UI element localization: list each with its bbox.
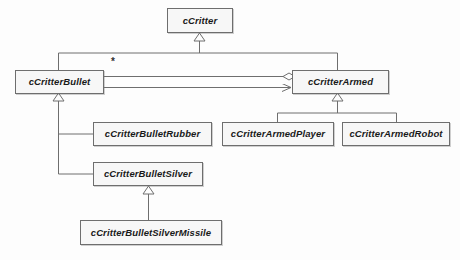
uml-class-diagram: cCritter cCritterBullet cCritterArmed cC… (0, 0, 460, 260)
class-box-ccritterarmed[interactable]: cCritterArmed (292, 70, 389, 94)
class-name-ccritter: cCritter (183, 16, 218, 26)
class-box-ccritterbulletsilvermissile[interactable]: cCritterBulletSilverMissile (80, 220, 222, 245)
class-name-ccritterbulletsilver: cCritterBulletSilver (104, 169, 192, 179)
class-box-ccritter[interactable]: cCritter (167, 8, 233, 33)
class-box-ccritterarmedrobot[interactable]: cCritterArmedRobot (342, 122, 450, 146)
class-name-ccritterbulletsilvermissile: cCritterBulletSilverMissile (91, 228, 211, 238)
class-name-ccritterarmedplayer: cCritterArmedPlayer (231, 129, 325, 139)
generalization-armed-bus (278, 101, 397, 122)
generalization-triangle-armed (332, 93, 343, 101)
class-box-ccritterbulletrubber[interactable]: cCritterBulletRubber (93, 122, 212, 146)
generalization-triangle-critter (194, 33, 205, 41)
class-name-ccritterbullet: cCritterBullet (29, 77, 91, 87)
class-box-ccritterbulletsilver[interactable]: cCritterBulletSilver (93, 162, 203, 186)
generalization-triangle-silver (143, 186, 154, 194)
multiplicity-label-star: * (111, 57, 115, 67)
class-name-ccritterbulletrubber: cCritterBulletRubber (105, 129, 200, 139)
generalization-bullet-bus (59, 101, 94, 174)
class-name-ccritterarmedrobot: cCritterArmedRobot (349, 129, 442, 139)
generalization-triangle-bullet (53, 93, 64, 101)
class-box-ccritterbullet[interactable]: cCritterBullet (15, 70, 104, 94)
class-box-ccritterarmedplayer[interactable]: cCritterArmedPlayer (222, 122, 334, 146)
class-name-ccritterarmed: cCritterArmed (308, 77, 373, 87)
